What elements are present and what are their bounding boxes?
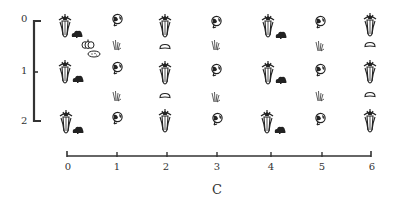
corn-icon <box>261 60 275 86</box>
grass-icon <box>211 39 221 51</box>
corn-icon <box>58 59 72 85</box>
bush-bean-icon <box>275 76 287 84</box>
planting-grid <box>0 0 401 140</box>
flower-cabbage-icon <box>211 112 223 126</box>
x-axis-title: C <box>212 182 222 197</box>
x-axis: 0 1 2 3 4 5 6 C <box>0 140 401 209</box>
flower-cabbage-icon <box>111 13 123 27</box>
flower-cabbage-icon <box>314 112 326 126</box>
grass-icon <box>211 91 221 103</box>
grass-icon <box>315 40 325 52</box>
flower-cabbage-icon <box>314 63 326 77</box>
corn-icon <box>363 59 377 85</box>
squash-icon <box>159 93 171 100</box>
bush-bean-icon <box>275 31 287 39</box>
corn-icon <box>363 108 377 134</box>
grass-icon <box>112 90 122 102</box>
corn-icon <box>59 109 73 135</box>
flower-cabbage-icon <box>111 61 123 75</box>
corn-icon <box>260 109 274 135</box>
corn-icon <box>58 13 72 39</box>
x-tick-label-4: 4 <box>268 161 274 172</box>
flower-cabbage-icon <box>210 63 222 77</box>
x-tick-label-2: 2 <box>163 161 169 172</box>
grass-icon <box>112 39 122 51</box>
x-tick-label-1: 1 <box>114 161 120 172</box>
squash-icon <box>159 44 171 51</box>
bush-bean-icon <box>72 126 84 134</box>
bush-bean-icon <box>274 126 286 134</box>
squash-icon <box>364 92 376 99</box>
pumpkin-icon <box>81 39 95 49</box>
x-tick-label-0: 0 <box>65 161 71 172</box>
squash-icon <box>364 42 376 49</box>
bush-bean-icon <box>72 75 84 83</box>
x-axis-line <box>0 140 401 170</box>
corn-icon <box>158 60 172 86</box>
x-tick-label-5: 5 <box>319 161 325 172</box>
flower-cabbage-icon <box>111 111 123 125</box>
grass-icon <box>315 90 325 102</box>
potato-icon <box>87 50 101 58</box>
flower-cabbage-icon <box>210 15 222 29</box>
corn-icon <box>363 12 377 38</box>
x-tick-label-3: 3 <box>214 161 220 172</box>
corn-icon <box>158 108 172 134</box>
flower-cabbage-icon <box>314 15 326 29</box>
corn-icon <box>158 13 172 39</box>
bush-bean-icon <box>71 30 83 38</box>
x-tick-label-6: 6 <box>369 161 375 172</box>
corn-icon <box>261 13 275 39</box>
